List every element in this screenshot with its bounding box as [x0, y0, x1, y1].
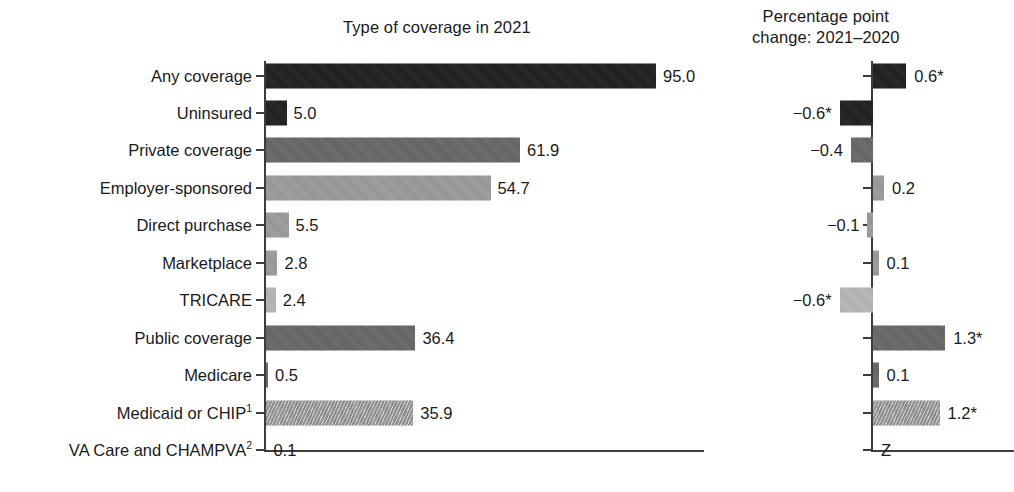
axis-tick — [256, 262, 265, 264]
value-label-coverage: 2.4 — [283, 291, 306, 310]
category-label-marketplace: Marketplace — [0, 253, 252, 272]
category-label-direct-purchase: Direct purchase — [0, 216, 252, 235]
category-label-medicare: Medicare — [0, 366, 252, 385]
category-label-tricare: TRICARE — [0, 291, 252, 310]
left-panel-title: Type of coverage in 2021 — [343, 18, 531, 37]
bar-change-private-coverage — [851, 138, 873, 163]
axis-tick — [256, 187, 265, 189]
value-label-change: 0.1 — [887, 253, 910, 272]
category-label-public-coverage: Public coverage — [0, 328, 252, 347]
bar-change-tricare — [840, 288, 873, 313]
right-panel-title-line2: change: 2021–2020 — [752, 27, 900, 48]
bar-change-public-coverage — [873, 325, 945, 350]
value-label-change: 0.6* — [914, 66, 943, 85]
axis-tick — [863, 412, 872, 414]
value-label-change: 0.1 — [887, 366, 910, 385]
bar-coverage-marketplace — [266, 250, 277, 275]
category-label-medicaid-or-chip: Medicaid or CHIP1 — [0, 403, 252, 422]
axis-tick — [863, 262, 872, 264]
bar-change-uninsured — [840, 100, 873, 125]
bar-change-employer-sponsored — [873, 175, 884, 200]
value-label-change: −0.6* — [793, 103, 832, 122]
bar-change-direct-purchase — [867, 213, 873, 238]
axis-tick — [863, 337, 872, 339]
value-label-change: −0.6* — [793, 291, 832, 310]
bar-coverage-direct-purchase — [266, 213, 289, 238]
axis-tick — [256, 149, 265, 151]
category-label-any-coverage: Any coverage — [0, 66, 252, 85]
value-label-coverage: 54.7 — [498, 178, 530, 197]
bar-coverage-public-coverage — [266, 325, 415, 350]
right-panel-baseline — [871, 450, 1014, 452]
axis-tick — [863, 449, 872, 451]
bar-change-medicare — [873, 363, 879, 388]
value-label-change: 1.3* — [953, 328, 982, 347]
bar-change-marketplace — [873, 250, 879, 275]
footnote-marker: 1 — [246, 402, 252, 414]
category-label-uninsured: Uninsured — [0, 103, 252, 122]
value-label-coverage: 36.4 — [422, 328, 454, 347]
bar-coverage-employer-sponsored — [266, 175, 491, 200]
category-label-va-care-and-champva: VA Care and CHAMPVA2 — [0, 441, 252, 460]
axis-tick — [863, 187, 872, 189]
axis-tick — [256, 112, 265, 114]
axis-tick — [256, 75, 265, 77]
value-label-coverage: 61.9 — [527, 141, 559, 160]
axis-tick — [863, 75, 872, 77]
value-label-coverage: 5.5 — [296, 216, 319, 235]
value-label-coverage: 0.5 — [275, 366, 298, 385]
value-label-coverage: 95.0 — [663, 66, 695, 85]
value-label-change: 0.2 — [892, 178, 915, 197]
axis-tick — [863, 374, 872, 376]
value-label-change: −0.1 — [827, 216, 860, 235]
value-label-coverage: 2.8 — [284, 253, 307, 272]
value-label-coverage: 5.0 — [294, 103, 317, 122]
right-panel-title-line1: Percentage point — [752, 6, 900, 27]
bar-coverage-any-coverage — [266, 63, 656, 88]
bar-change-any-coverage — [873, 63, 906, 88]
value-label-coverage: 0.1 — [273, 441, 296, 460]
bar-coverage-medicare — [266, 363, 268, 388]
chart-canvas: Type of coverage in 2021 Percentage poin… — [0, 0, 1014, 492]
value-label-coverage: 35.9 — [420, 403, 452, 422]
left-panel-baseline — [264, 450, 704, 452]
bar-coverage-medicaid-or-chip — [266, 400, 413, 425]
bar-coverage-uninsured — [266, 100, 287, 125]
axis-tick — [256, 449, 265, 451]
category-label-employer-sponsored: Employer-sponsored — [0, 178, 252, 197]
axis-tick — [256, 412, 265, 414]
category-label-private-coverage: Private coverage — [0, 141, 252, 160]
axis-tick — [256, 299, 265, 301]
axis-tick — [256, 374, 265, 376]
value-label-change: −0.4 — [810, 141, 843, 160]
axis-tick — [256, 224, 265, 226]
bar-coverage-tricare — [266, 288, 276, 313]
bar-change-medicaid-or-chip — [873, 400, 940, 425]
zero-marker-label: Z — [881, 441, 891, 460]
right-panel-title: Percentage point change: 2021–2020 — [752, 6, 900, 48]
axis-tick — [256, 337, 265, 339]
value-label-change: 1.2* — [948, 403, 977, 422]
bar-coverage-private-coverage — [266, 138, 520, 163]
footnote-marker: 2 — [246, 439, 252, 451]
